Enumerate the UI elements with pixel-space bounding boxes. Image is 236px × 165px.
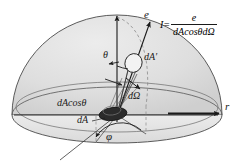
label-radius-axis-r: r (225, 101, 229, 112)
radiance-formula: I= e dAcosθdΩ (160, 12, 217, 37)
formula-denominator: dAcosθdΩ (171, 24, 217, 37)
label-polar-angle-theta: θ (103, 50, 108, 60)
label-azimuth-angle-phi: φ (106, 131, 112, 142)
label-projected-area-dAcos-theta: dAcosθ (57, 98, 86, 108)
label-projected-patch-dA-prime: dA′ (144, 52, 157, 62)
label-ray-vector-e: e (144, 9, 149, 20)
radiance-hemisphere-figure: e r θ φ dA′ dΩ dAcosθ dA I= e dAcosθdΩ (0, 0, 236, 165)
label-area-element-dA: dA (77, 115, 88, 125)
label-solid-angle-d-omega: dΩ (128, 91, 140, 101)
formula-fraction: e dAcosθdΩ (171, 12, 217, 37)
formula-numerator: e (188, 12, 200, 24)
formula-lhs: I= (160, 19, 170, 30)
